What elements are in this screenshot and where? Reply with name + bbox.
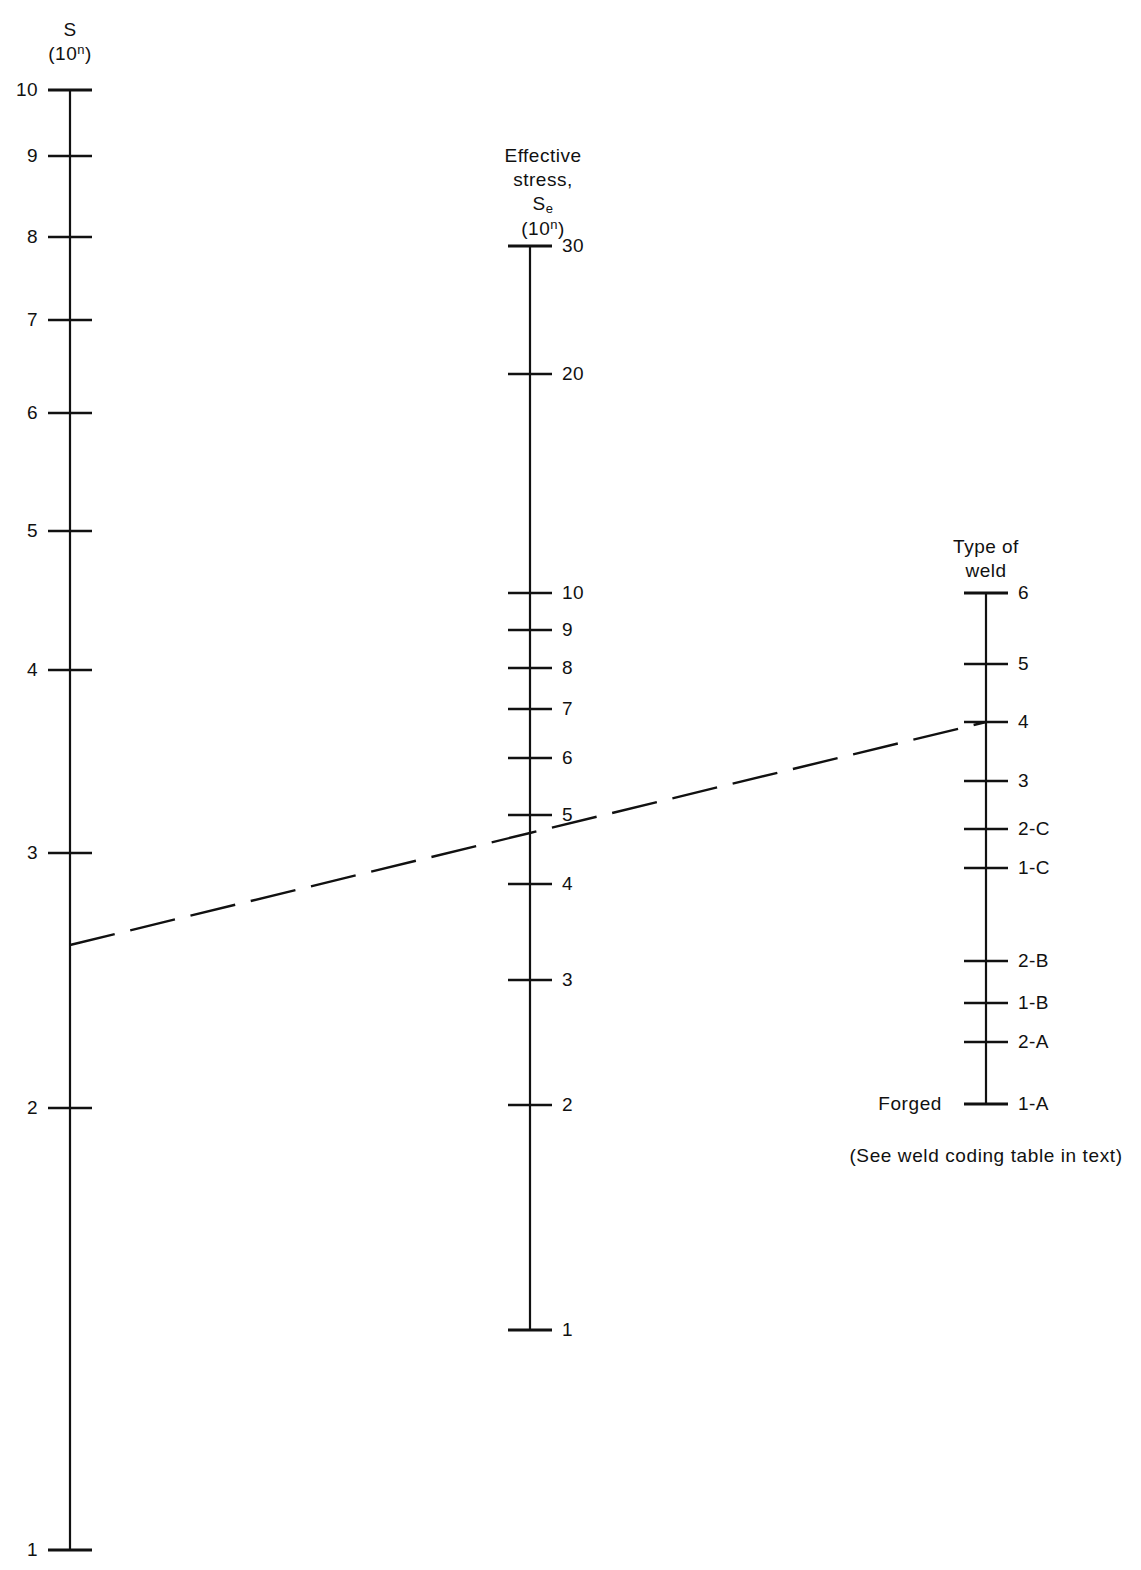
tick-label-S-9: 9 — [27, 145, 38, 167]
tick-label-Se-1: 1 — [562, 1319, 573, 1341]
scale-se-header-line1: Effective — [504, 144, 581, 168]
tick-label-S-4: 4 — [27, 659, 38, 681]
index-line[interactable] — [70, 722, 986, 945]
scale-weld-header-line1: Type of — [953, 535, 1019, 559]
weld-coding-footnote: (See weld coding table in text) — [849, 1145, 1122, 1167]
tick-label-Se-4: 4 — [562, 873, 573, 895]
tick-label-S-2: 2 — [27, 1097, 38, 1119]
tick-label-weld-1-C: 1-C — [1018, 857, 1050, 879]
tick-label-weld-6: 6 — [1018, 582, 1029, 604]
tick-label-Se-7: 7 — [562, 698, 573, 720]
tick-label-S-1: 1 — [27, 1539, 38, 1561]
tick-label-Se-2: 2 — [562, 1094, 573, 1116]
scale-se-header-symbol: Se — [504, 192, 581, 218]
scale-s-header: S (10n) — [48, 18, 92, 66]
tick-label-Se-8: 8 — [562, 657, 573, 679]
tick-label-weld-2-B: 2-B — [1018, 950, 1049, 972]
scale-weld-header-line2: weld — [953, 559, 1019, 583]
tick-label-Se-9: 9 — [562, 619, 573, 641]
tick-label-Se-5: 5 — [562, 804, 573, 826]
tick-label-S-8: 8 — [27, 226, 38, 248]
index-line-group — [70, 722, 986, 945]
tick-label-Se-3: 3 — [562, 969, 573, 991]
scale-se-header-line2: stress, — [504, 168, 581, 192]
ticks-group — [48, 90, 1008, 1550]
tick-label-Se-10: 10 — [562, 582, 584, 604]
scale-s-header-symbol: S — [48, 18, 92, 42]
tick-label-S-6: 6 — [27, 402, 38, 424]
tick-label-Se-20: 20 — [562, 363, 584, 385]
tick-label-S-3: 3 — [27, 842, 38, 864]
tick-label-weld-2-C: 2-C — [1018, 818, 1050, 840]
tick-label-S-5: 5 — [27, 520, 38, 542]
tick-label-weld-5: 5 — [1018, 653, 1029, 675]
tick-label-weld-1-A: 1-A — [1018, 1093, 1049, 1115]
tick-label-Se-6: 6 — [562, 747, 573, 769]
tick-label-S-10: 10 — [16, 79, 38, 101]
tick-label-weld-2-A: 2-A — [1018, 1031, 1049, 1053]
scale-se-header-units: (10n) — [504, 217, 581, 241]
tick-label-weld-3: 3 — [1018, 770, 1029, 792]
forged-annotation: Forged — [878, 1093, 942, 1115]
scale-weld-header: Type of weld — [953, 535, 1019, 583]
nomogram-figure: 1098765432130201098765432165432-C1-C2-B1… — [0, 0, 1141, 1570]
scale-se-header: Effective stress, Se (10n) — [504, 144, 581, 241]
tick-label-weld-1-B: 1-B — [1018, 992, 1049, 1014]
tick-label-S-7: 7 — [27, 309, 38, 331]
tick-label-weld-4: 4 — [1018, 711, 1029, 733]
scale-s-header-units: (10n) — [48, 42, 92, 66]
